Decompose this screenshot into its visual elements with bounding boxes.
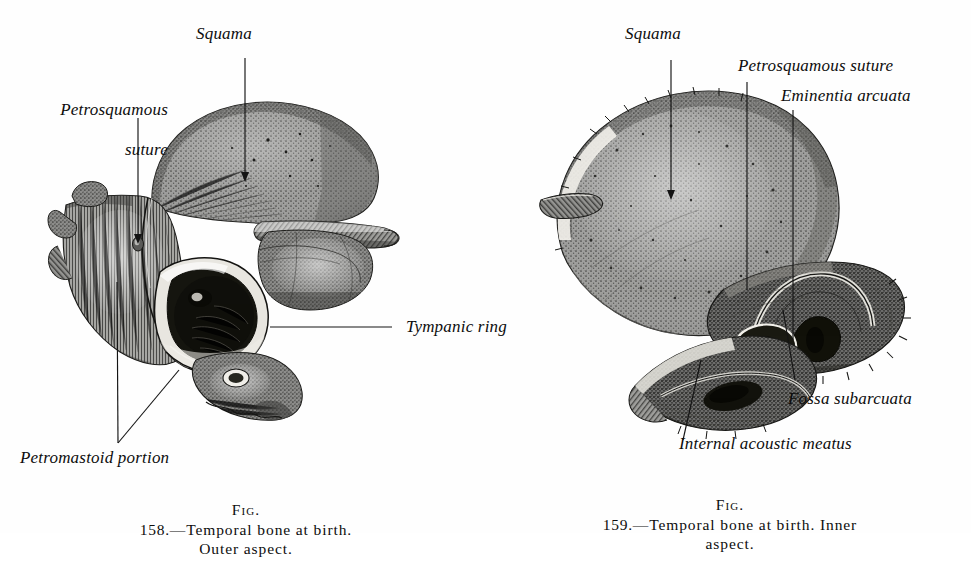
label-petromastoid-portion-158: Petromastoid portion	[20, 448, 169, 468]
label-squama-158: Squama	[196, 24, 252, 44]
label-internal-acoustic-meatus-159: Internal acoustic meatus	[679, 434, 852, 454]
caption-159-line1: Temporal bone at birth. Inner	[649, 516, 857, 533]
caption-159-fig-word: Fig.	[716, 496, 745, 513]
caption-159-dash: —	[633, 516, 649, 533]
caption-158-fig-word: Fig.	[232, 501, 261, 518]
bone-outline-inner	[540, 80, 911, 439]
caption-159: Fig. 159.—Temporal bone at birth. Inner …	[545, 476, 915, 561]
mastoid-tail-region	[192, 353, 302, 424]
label-eminentia-arcuata-159: Eminentia arcuata	[781, 86, 911, 106]
squama-region	[140, 92, 390, 232]
caption-159-number: 159.	[603, 516, 633, 533]
caption-158-line1: Temporal bone at birth.	[186, 521, 352, 538]
label-fossa-subarcuata-159: Fossa subarcuata	[788, 389, 912, 409]
caption-159-line2: aspect.	[545, 534, 915, 553]
caption-158-number: 158.	[140, 521, 170, 538]
caption-158: Fig. 158.—Temporal bone at birth. Outer …	[86, 481, 406, 561]
mandibular-fossa-region	[256, 230, 376, 314]
label-petrosquamous-suture-158: Petrosquamous suture	[14, 80, 168, 180]
label-squama-159: Squama	[625, 24, 681, 44]
leader-petromastoid-lower	[118, 370, 179, 443]
caption-158-dash: —	[170, 521, 186, 538]
caption-158-line2: Outer aspect.	[86, 539, 406, 558]
figure-158: Squama Petrosquamous suture Tympanic rin…	[0, 0, 486, 533]
petrous-apex-tail	[629, 336, 817, 439]
label-petrosquamous-suture-line1: Petrosquamous	[60, 100, 168, 119]
label-petrosquamous-suture-line2: suture	[125, 140, 168, 159]
figure-159: Squama Petrosquamous suture Eminentia ar…	[485, 0, 971, 533]
label-petrosquamous-suture-159: Petrosquamous suture	[738, 56, 893, 76]
